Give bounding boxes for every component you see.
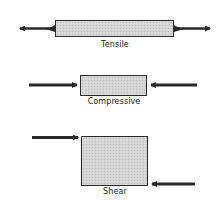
shear-label: Shear [85,187,145,196]
tensile-label: Tensile [85,40,145,49]
compressive-label: Compressive [78,97,150,106]
shear-block [81,136,148,186]
compressive-block [80,75,147,96]
tensile-block [55,20,174,37]
